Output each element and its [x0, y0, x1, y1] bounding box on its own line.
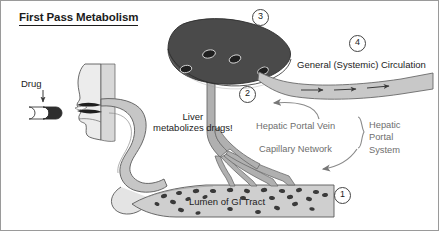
hepatic-portal-system-brace	[358, 117, 364, 148]
systemic-circulation-vessel	[258, 72, 433, 99]
drug-capsule	[29, 107, 62, 119]
hps-line1: Hepatic	[369, 119, 401, 131]
general-circulation-label: General (Systemic) Circulation	[297, 60, 426, 71]
figure-frame: First Pass Metabolism Drug Liver metabol…	[0, 0, 439, 231]
drug-label: Drug	[21, 79, 42, 90]
step-marker-2: 2	[239, 86, 256, 103]
liver-label-line1: Liver	[183, 111, 204, 122]
liver-label-line2: metabolizes drugs!	[153, 123, 233, 134]
figure-title: First Pass Metabolism	[19, 11, 138, 26]
hepatic-portal-vein-pointer	[274, 103, 319, 119]
hps-line2: Portal	[369, 131, 401, 143]
face-profile	[77, 64, 101, 140]
step-marker-3: 3	[252, 9, 269, 26]
step-marker-4: 4	[349, 35, 366, 52]
hepatic-portal-system-label: Hepatic Portal System	[369, 119, 401, 156]
lumen-of-gi-tract-label: Lumen of GI Tract	[189, 197, 265, 208]
liver-label: Liver metabolizes drugs!	[153, 112, 233, 133]
capillary-network	[215, 151, 295, 186]
step-marker-1: 1	[334, 187, 351, 204]
hepatic-portal-vein-label: Hepatic Portal Vein	[256, 121, 335, 131]
hps-line3: System	[369, 144, 401, 156]
capillary-network-label: Capillary Network	[259, 144, 332, 154]
